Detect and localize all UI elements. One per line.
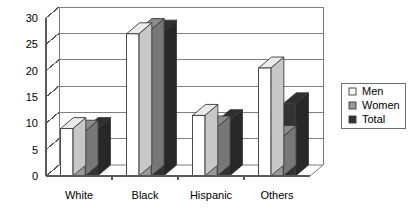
bar-side-face: [151, 19, 164, 176]
bar-group: [193, 104, 243, 176]
x-axis: OthersHispanicBlackWhite: [46, 176, 310, 201]
bar-group: [259, 57, 309, 176]
bar-group: [127, 19, 177, 176]
y-tick: [46, 112, 59, 123]
y-axis-tick-labels: 051015202530: [26, 12, 38, 182]
bar-group: [61, 118, 111, 176]
bar-side-face: [271, 57, 284, 176]
category-label: Hispanic: [190, 189, 233, 201]
y-tick-label: 25: [26, 38, 38, 50]
bar-chart: 051015202530 OthersHispanicBlackWhite Me…: [0, 0, 417, 216]
legend-label: Total: [362, 113, 385, 125]
category-label: Others: [260, 189, 294, 201]
category-label: White: [65, 189, 93, 201]
y-tick-label: 5: [32, 144, 38, 156]
bar: [193, 104, 218, 176]
bar-series-group: [61, 19, 309, 176]
y-axis-ticks: [46, 7, 59, 176]
bar-front-face: [259, 68, 271, 176]
bar-side-face: [163, 20, 176, 176]
y-tick: [46, 86, 59, 97]
bar: [127, 23, 152, 176]
chart-legend: MenWomenTotal: [341, 83, 405, 128]
legend-swatch: [349, 102, 356, 109]
y-tick: [46, 139, 59, 150]
y-tick-label: 30: [26, 12, 38, 24]
y-tick-label: 15: [26, 91, 38, 103]
legend-swatch: [349, 116, 356, 123]
y-tick: [46, 7, 59, 18]
bar-front-face: [193, 115, 205, 176]
y-tick-label: 0: [32, 170, 38, 182]
chart-canvas: 051015202530 OthersHispanicBlackWhite Me…: [0, 0, 417, 216]
legend-swatch: [349, 88, 356, 95]
y-axis: 051015202530: [26, 7, 59, 182]
x-axis-ticks: [112, 176, 244, 180]
bar-side-face: [205, 104, 218, 176]
bar-side-face: [229, 110, 242, 176]
bar-side-face: [295, 93, 308, 176]
legend-label: Women: [362, 99, 400, 111]
y-tick-label: 10: [26, 117, 38, 129]
y-tick: [46, 60, 59, 71]
x-axis-category-labels: OthersHispanicBlackWhite: [65, 189, 294, 201]
legend-label: Men: [362, 85, 383, 97]
category-label: Black: [132, 189, 159, 201]
bar-side-face: [139, 23, 152, 176]
y-tick: [46, 33, 59, 44]
bar-front-face: [61, 129, 73, 176]
y-tick-label: 20: [26, 65, 38, 77]
bar-front-face: [127, 34, 139, 176]
bar: [259, 57, 284, 176]
bar: [61, 118, 86, 176]
